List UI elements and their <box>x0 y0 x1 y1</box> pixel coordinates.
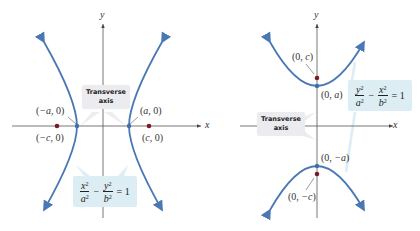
focus-right-label: (c, 0) <box>142 133 163 143</box>
equation-callout-pointer <box>76 165 128 176</box>
focus-top-label: (0, c) <box>292 52 313 62</box>
focus-bottom-label: (0, −c) <box>288 192 316 202</box>
x-axis-label: x <box>393 120 397 130</box>
vertex-bottom-label: (0, −a) <box>321 153 349 163</box>
focus-right-dot <box>147 124 152 129</box>
callout-line1: Transverse <box>261 115 301 124</box>
vertex-top-label: (0, a) <box>321 90 343 100</box>
focus-left-label: (−c, 0) <box>36 133 64 143</box>
y-axis-label: y <box>100 10 104 20</box>
hyperbola-vertical-diagram: y x Transverse axis (0, c) (0, a) (0, −a… <box>210 0 420 231</box>
focus-bottom-dot <box>315 172 320 177</box>
callout-line2: axis <box>261 124 301 133</box>
x-axis-label: x <box>205 120 209 130</box>
vertex-left-dot <box>75 124 79 128</box>
callout-line2: axis <box>86 97 126 106</box>
vertex-right-dot <box>127 124 131 128</box>
focus-left-dot <box>55 124 60 129</box>
vertex-top-dot <box>315 84 319 88</box>
equation-box: y2a2 − x2b2 = 1 <box>348 80 412 111</box>
vertex-left-label: (−a, 0) <box>36 106 64 116</box>
y-axis-label: y <box>314 10 318 20</box>
callout-line1: Transverse <box>86 88 126 97</box>
focus-top-dot <box>315 76 320 81</box>
vertex-right-label: (a, 0) <box>140 106 162 116</box>
hyperbola-horizontal-diagram: y x Transverse axis (−a, 0) (a, 0) (−c, … <box>0 0 210 231</box>
vertex-bottom-dot <box>315 164 319 168</box>
transverse-axis-callout: Transverse axis <box>82 85 130 109</box>
transverse-axis-callout: Transverse axis <box>257 112 305 136</box>
equation-box: x2a2 − y2b2 = 1 <box>73 176 137 207</box>
